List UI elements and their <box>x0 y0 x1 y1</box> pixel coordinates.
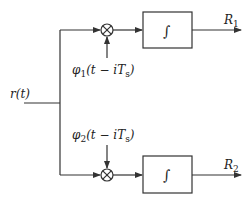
basis1-label: φ1(t − iTs) <box>72 63 135 79</box>
multiplier-2-icon <box>101 169 113 181</box>
integral-1-icon: ∫ <box>163 23 170 39</box>
input-label: r(t) <box>10 87 30 101</box>
correlator-diagram: r(t) φ1(t − iTs) ∫ R1 φ2(t − iTs) ∫ R2 <box>0 0 250 201</box>
output2-label: R2 <box>223 158 239 174</box>
multiplier-1-icon <box>101 24 113 36</box>
basis2-label: φ2(t − iTs) <box>72 128 135 144</box>
integral-2-icon: ∫ <box>163 167 170 183</box>
output1-label: R1 <box>223 13 239 29</box>
